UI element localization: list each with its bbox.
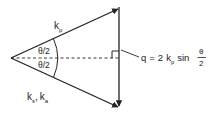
formula-fraction-numerator: θ — [199, 47, 204, 56]
formula-k-subscript: p — [171, 59, 175, 65]
formula-fraction-denominator: 2 — [199, 59, 204, 68]
formula-leader-line — [121, 50, 139, 57]
formula-sin: sin — [177, 52, 189, 63]
right-angle-marker — [112, 51, 119, 58]
formula-equals: = — [149, 52, 155, 63]
label-kp-subscript: p — [59, 27, 63, 33]
formula-coefficient: 2 — [158, 52, 163, 63]
formula-lhs: q — [141, 52, 146, 63]
label-ks-ka: ks,ka — [27, 91, 49, 104]
vector-kp-arrow — [11, 9, 118, 58]
label-separator: , — [35, 91, 38, 102]
scattering-vector-diagram: kp θ/2 θ/2 ks,ka q=2kpsin θ 2 — [0, 0, 214, 116]
label-ka-subscript: a — [45, 98, 49, 104]
label-kp: kp — [54, 20, 63, 33]
label-angle-lower: θ/2 — [38, 60, 50, 70]
formula-q: q=2kpsin — [141, 52, 189, 65]
label-angle-upper: θ/2 — [38, 46, 50, 56]
